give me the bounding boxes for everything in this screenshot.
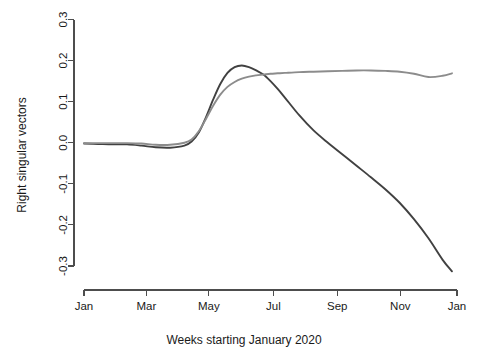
x-tick-label: Jan [75, 300, 94, 312]
x-axis-title: Weeks starting January 2020 [166, 333, 322, 347]
y-tick-label: 0.1 [57, 94, 69, 110]
x-tick-label: Mar [136, 300, 156, 312]
y-axis-title: Right singular vectors [15, 97, 29, 212]
series-line-first-right-singular-vector [84, 66, 452, 272]
x-tick-label: Nov [390, 300, 411, 312]
y-tick-label: -0.2 [57, 215, 69, 235]
x-axis: JanMarMayJulSepNovJan [75, 290, 467, 312]
x-tick-label: Jul [266, 300, 281, 312]
y-tick-label: 0.0 [57, 135, 69, 151]
series-line-second-right-singular-vector [84, 70, 452, 145]
y-tick-label: -0.1 [57, 174, 69, 194]
y-tick-label: 0.2 [57, 53, 69, 69]
y-tick-label: -0.3 [57, 256, 69, 276]
y-tick-label: 0.3 [57, 12, 69, 28]
y-axis: 0.30.20.10.0-0.1-0.2-0.3 [57, 12, 74, 276]
x-tick-label: Jan [448, 300, 467, 312]
line-chart: 0.30.20.10.0-0.1-0.2-0.3 JanMarMayJulSep… [0, 0, 488, 364]
x-tick-label: Sep [327, 300, 347, 312]
plot-root: 0.30.20.10.0-0.1-0.2-0.3 JanMarMayJulSep… [0, 0, 488, 364]
x-tick-label: May [198, 300, 220, 312]
series-group [84, 66, 452, 272]
